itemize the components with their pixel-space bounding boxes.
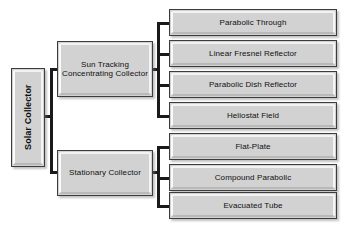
node-solar-collector-label: Solar Collector [23,85,33,151]
node-sun-tracking-concentrating-collector-label: Sun Tracking Concentrating Collector [62,60,148,78]
node-sun-tracking-concentrating-collector[interactable]: Sun Tracking Concentrating Collector [57,41,153,97]
node-heliostat-field[interactable]: Heliostat Field [169,102,337,129]
node-parabolic-dish-reflector[interactable]: Parabolic Dish Reflector [169,71,337,98]
node-parabolic-dish-reflector-label: Parabolic Dish Reflector [209,80,297,89]
node-parabolic-through[interactable]: Parabolic Through [169,9,337,36]
node-heliostat-field-label: Heliostat Field [227,111,279,120]
node-evacuated-tube[interactable]: Evacuated Tube [169,192,337,219]
node-compound-parabolic[interactable]: Compound Parabolic [169,164,337,191]
node-solar-collector[interactable]: Solar Collector [11,68,45,167]
connector-root-trunk [50,68,53,174]
node-linear-fresnel-reflector[interactable]: Linear Fresnel Reflector [169,40,337,67]
node-stationary-collector[interactable]: Stationary Collector [57,150,153,196]
node-parabolic-through-label: Parabolic Through [220,18,287,27]
node-linear-fresnel-reflector-label: Linear Fresnel Reflector [209,49,297,58]
node-compound-parabolic-label: Compound Parabolic [215,173,292,182]
node-flat-plate-label: Flat-Plate [235,142,270,151]
node-flat-plate[interactable]: Flat-Plate [169,133,337,160]
connector-sun-tracking-trunk [157,22,160,118]
solar-collector-diagram: Solar Collector Sun Tracking Concentrati… [0,0,349,226]
node-evacuated-tube-label: Evacuated Tube [223,201,282,210]
node-stationary-collector-label: Stationary Collector [69,168,141,177]
